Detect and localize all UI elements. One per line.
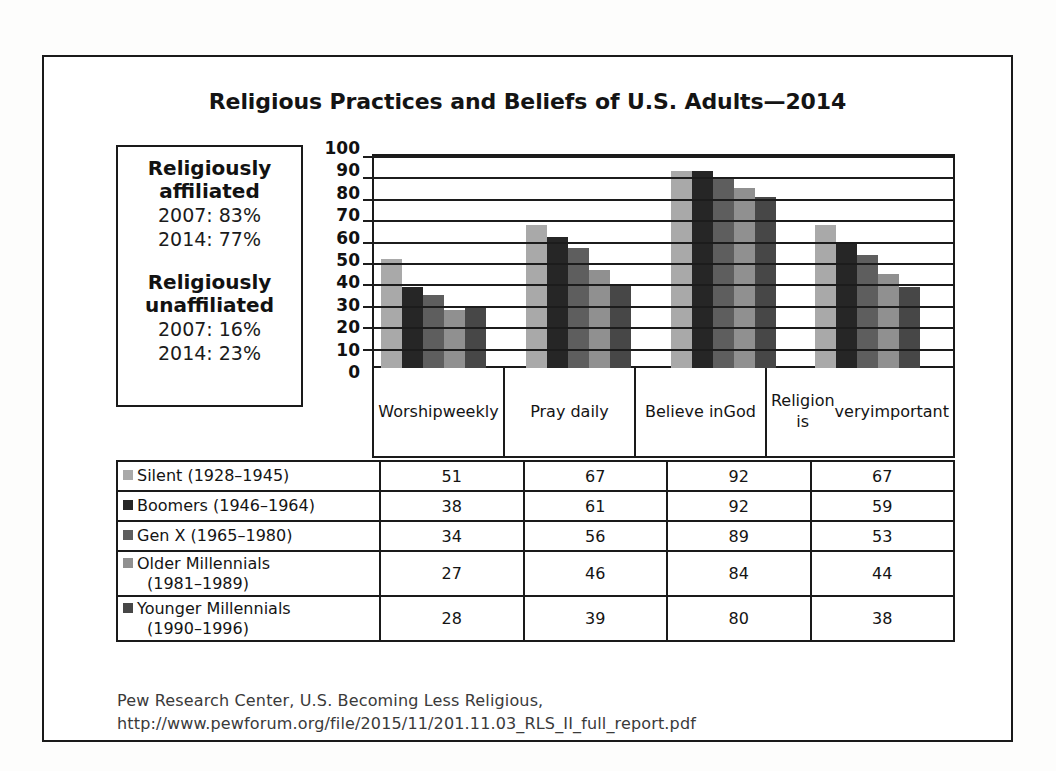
legend-label-1: Boomers (1946–1964) xyxy=(137,496,315,515)
axis-tick-mark-30 xyxy=(363,306,374,308)
affiliated-2007-value: 2007: 83% xyxy=(118,203,301,227)
category-label-line: weekly xyxy=(443,402,499,423)
legend-swatch-icon xyxy=(123,500,133,510)
bar-2-3 xyxy=(734,188,755,368)
category-label-3: Religion isveryimportant xyxy=(767,368,953,456)
y-axis-tick-labels: 1009080706050403020100 xyxy=(294,148,360,372)
bar-chart-plot-area xyxy=(372,154,955,368)
axis-tick-mark-10 xyxy=(363,349,374,351)
legend-swatch-icon xyxy=(123,558,133,568)
table-row: Younger Millennials(1990–1996)28398038 xyxy=(117,596,954,641)
bar-group-2 xyxy=(664,156,809,368)
gridline-20 xyxy=(374,327,953,329)
gridline-50 xyxy=(374,263,953,265)
table-row: Boomers (1946–1964)38619259 xyxy=(117,491,954,521)
y-axis-tick-10: 10 xyxy=(336,341,360,358)
y-axis-tick-80: 80 xyxy=(336,184,360,201)
bar-2-4 xyxy=(755,197,776,368)
bar-group-1 xyxy=(519,156,664,368)
legend-label-sub-3: (1981–1989) xyxy=(123,574,379,594)
legend-cell-0: Silent (1928–1945) xyxy=(117,461,380,491)
y-axis-tick-0: 0 xyxy=(348,364,360,381)
value-cell-2-2: 89 xyxy=(667,521,811,551)
category-label-1: Pray daily xyxy=(505,368,636,456)
value-cell-3-0: 27 xyxy=(380,551,524,596)
value-cell-1-0: 38 xyxy=(380,491,524,521)
y-axis-tick-20: 20 xyxy=(336,319,360,336)
bar-0-3 xyxy=(444,310,465,368)
y-axis-tick-100: 100 xyxy=(325,140,361,157)
axis-tick-mark-90 xyxy=(363,177,374,179)
value-cell-2-0: 34 xyxy=(380,521,524,551)
category-label-line: God xyxy=(724,402,756,423)
category-label-line: Believe in xyxy=(645,402,724,423)
value-cell-1-1: 61 xyxy=(524,491,668,521)
y-axis-tick-40: 40 xyxy=(336,274,360,291)
legend-cell-2: Gen X (1965–1980) xyxy=(117,521,380,551)
affiliated-2014-value: 2014: 77% xyxy=(118,227,301,251)
gridline-100 xyxy=(374,156,953,158)
affiliated-heading-line1: Religiously xyxy=(118,157,301,180)
gridline-90 xyxy=(374,177,953,179)
unaffiliated-heading-line1: Religiously xyxy=(118,271,301,294)
axis-tick-mark-100 xyxy=(363,156,374,158)
category-label-0: Worshipweekly xyxy=(374,368,505,456)
source-citation: Pew Research Center, U.S. Becoming Less … xyxy=(117,689,696,735)
gridline-70 xyxy=(374,220,953,222)
bar-1-0 xyxy=(526,225,547,368)
bar-group-0 xyxy=(374,156,519,368)
category-label-line: Worship xyxy=(378,402,442,423)
axis-tick-mark-80 xyxy=(363,199,374,201)
source-line-1: Pew Research Center, U.S. Becoming Less … xyxy=(117,689,696,712)
legend-cell-1: Boomers (1946–1964) xyxy=(117,491,380,521)
legend-label-2: Gen X (1965–1980) xyxy=(137,526,292,545)
category-label-line: important xyxy=(870,402,949,423)
bar-3-3 xyxy=(878,274,899,368)
y-axis-tick-60: 60 xyxy=(336,229,360,246)
table-row: Older Millennials(1981–1989)27468444 xyxy=(117,551,954,596)
y-axis-tick-30: 30 xyxy=(336,296,360,313)
legend-cell-3: Older Millennials(1981–1989) xyxy=(117,551,380,596)
unaffiliated-heading: Religiously unaffiliated xyxy=(118,271,301,317)
religious-affiliation-info-box: Religiously affiliated 2007: 83% 2014: 7… xyxy=(116,145,303,407)
legend-label-sub-4: (1990–1996) xyxy=(123,619,379,639)
legend-label-4: Younger Millennials xyxy=(137,599,291,618)
category-label-2: Believe inGod xyxy=(636,368,767,456)
unaffiliated-2007-value: 2007: 16% xyxy=(118,317,301,341)
bar-3-2 xyxy=(857,255,878,368)
value-cell-3-2: 84 xyxy=(667,551,811,596)
bar-group-3 xyxy=(808,156,953,368)
bar-2-2 xyxy=(713,178,734,368)
value-cell-0-2: 92 xyxy=(667,461,811,491)
axis-tick-mark-70 xyxy=(363,220,374,222)
axis-tick-mark-60 xyxy=(363,242,374,244)
value-cell-3-3: 44 xyxy=(811,551,955,596)
legend-label-0: Silent (1928–1945) xyxy=(137,466,289,485)
value-cell-2-1: 56 xyxy=(524,521,668,551)
category-label-line: Religion is xyxy=(771,391,835,433)
axis-tick-mark-40 xyxy=(363,284,374,286)
value-cell-4-2: 80 xyxy=(667,596,811,641)
legend-swatch-icon xyxy=(123,603,133,613)
y-axis-tick-90: 90 xyxy=(336,162,360,179)
gridline-40 xyxy=(374,284,953,286)
legend-label-3: Older Millennials xyxy=(137,554,270,573)
gridline-80 xyxy=(374,199,953,201)
category-label-line: Pray daily xyxy=(530,402,609,423)
value-cell-4-0: 28 xyxy=(380,596,524,641)
legend-swatch-icon xyxy=(123,470,133,480)
value-cell-1-2: 92 xyxy=(667,491,811,521)
source-line-2: http://www.pewforum.org/file/2015/11/201… xyxy=(117,712,696,735)
bar-3-0 xyxy=(815,225,836,368)
legend-swatch-icon xyxy=(123,530,133,540)
figure-frame: Religious Practices and Beliefs of U.S. … xyxy=(42,55,1013,742)
table-row: Silent (1928–1945)51679267 xyxy=(117,461,954,491)
axis-tick-mark-20 xyxy=(363,327,374,329)
affiliated-heading-line2: affiliated xyxy=(118,180,301,203)
category-label-line: very xyxy=(835,402,870,423)
chart-title: Religious Practices and Beliefs of U.S. … xyxy=(44,89,1011,114)
value-cell-4-1: 39 xyxy=(524,596,668,641)
y-axis-tick-50: 50 xyxy=(336,252,360,269)
value-cell-2-3: 53 xyxy=(811,521,955,551)
legend-cell-4: Younger Millennials(1990–1996) xyxy=(117,596,380,641)
